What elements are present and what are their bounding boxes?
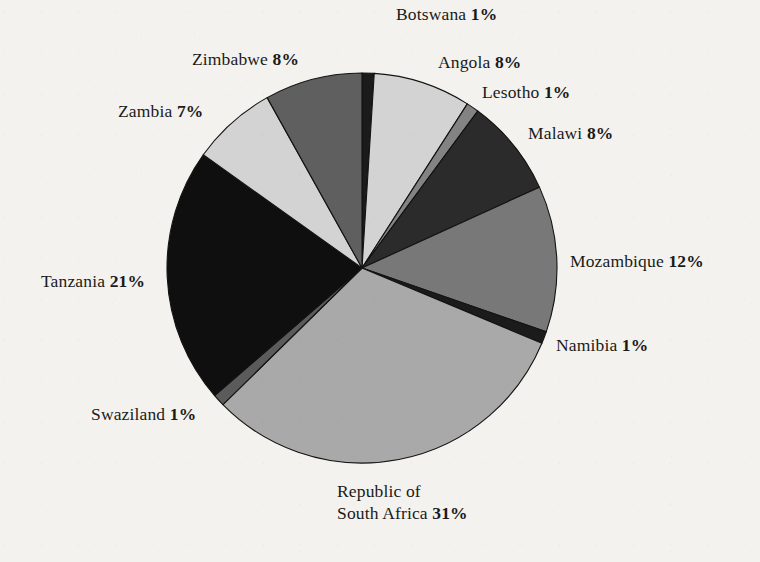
slice-label-swaziland-name: Swaziland: [91, 404, 165, 424]
slice-label-angola-pct: 8%: [495, 52, 522, 72]
slice-label-namibia-name: Namibia: [556, 335, 617, 355]
slice-label-zimbabwe: Zimbabwe 8%: [192, 48, 299, 70]
slice-label-mozambique-name: Mozambique: [570, 251, 664, 271]
slice-label-lesotho-name: Lesotho: [482, 82, 539, 102]
slice-label-namibia-pct: 1%: [622, 335, 649, 355]
slice-label-malawi-pct: 8%: [587, 123, 614, 143]
slice-label-botswana-pct: 1%: [471, 4, 498, 24]
slice-label-zimbabwe-name: Zimbabwe: [192, 49, 268, 69]
slice-label-zimbabwe-pct: 8%: [273, 49, 300, 69]
slice-label-zambia-pct: 7%: [177, 101, 204, 121]
slice-label-angola: Angola 8%: [438, 51, 522, 73]
slice-label-mozambique-pct: 12%: [668, 251, 703, 271]
slice-label-zambia: Zambia 7%: [118, 100, 203, 122]
pie-chart: Botswana 1%Angola 8%Lesotho 1%Malawi 8%M…: [0, 0, 760, 562]
slice-label-tanzania-pct: 21%: [110, 271, 145, 291]
slice-label-malawi: Malawi 8%: [528, 122, 613, 144]
slice-label-south-africa-line2: South Africa: [337, 503, 428, 523]
slice-label-tanzania: Tanzania 21%: [41, 270, 145, 292]
slice-label-botswana: Botswana 1%: [396, 3, 497, 25]
slice-label-swaziland-pct: 1%: [170, 404, 197, 424]
slice-label-botswana-name: Botswana: [396, 4, 466, 24]
slice-label-lesotho-pct: 1%: [544, 82, 571, 102]
pie-wedge-group: Botswana 1%Angola 8%Lesotho 1%Malawi 8%M…: [167, 73, 557, 463]
slice-label-swaziland: Swaziland 1%: [91, 403, 196, 425]
slice-label-lesotho: Lesotho 1%: [482, 81, 571, 103]
slice-label-angola-name: Angola: [438, 52, 490, 72]
slice-label-malawi-name: Malawi: [528, 123, 582, 143]
slice-label-south-africa-pct: 31%: [432, 503, 467, 523]
slice-label-south-africa-line1: Republic of: [337, 481, 421, 501]
slice-label-south-africa: Republic of South Africa 31%: [337, 480, 468, 524]
slice-label-mozambique: Mozambique 12%: [570, 250, 704, 272]
slice-label-namibia: Namibia 1%: [556, 334, 648, 356]
slice-label-zambia-name: Zambia: [118, 101, 172, 121]
slice-label-tanzania-name: Tanzania: [41, 271, 105, 291]
